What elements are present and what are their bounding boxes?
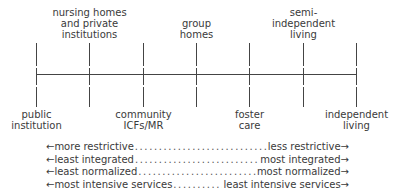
leader-dots bbox=[173, 179, 222, 192]
tick-label-line: care bbox=[235, 120, 264, 131]
tick-mark bbox=[143, 43, 144, 66]
legend-left-label: ←more restrictive bbox=[46, 141, 134, 154]
tick-mark bbox=[356, 87, 357, 107]
tick-mark bbox=[249, 43, 250, 66]
legend-left-label: ←least normalized bbox=[46, 166, 137, 179]
tick-mark bbox=[196, 68, 197, 85]
leader-dots bbox=[135, 154, 259, 167]
tick-mark bbox=[143, 68, 144, 85]
tick-mark bbox=[36, 68, 37, 85]
tick-label: nursing homesand privateinstitutions bbox=[52, 7, 126, 40]
tick-mark bbox=[249, 68, 250, 85]
tick-label-line: independent bbox=[325, 109, 388, 120]
tick-label-line: semi- bbox=[272, 7, 335, 18]
legend-right-label: most integrated→ bbox=[260, 154, 349, 167]
legend-row-integrated: ←least integrated most integrated→ bbox=[46, 154, 349, 167]
tick-label-line: institution bbox=[11, 120, 61, 131]
legend-row-intensive-services: ←most intensive services least intensive… bbox=[46, 179, 349, 192]
tick-mark bbox=[356, 43, 357, 66]
leader-dots bbox=[135, 141, 267, 154]
legend-left-label: ←least integrated bbox=[46, 154, 134, 167]
tick-label-line: group bbox=[180, 18, 214, 29]
tick-label-line: community bbox=[115, 109, 171, 120]
tick-mark bbox=[89, 68, 90, 85]
legend-row-normalized: ←least normalized most normalized→ bbox=[46, 166, 349, 179]
tick-label-line: foster bbox=[235, 109, 264, 120]
tick-label: communityICFs/MR bbox=[115, 109, 171, 131]
tick-label-line: ICFs/MR bbox=[115, 120, 171, 131]
tick-label: publicinstitution bbox=[11, 109, 61, 131]
tick-label-line: nursing homes bbox=[52, 7, 126, 18]
legend-right-label: most normalized→ bbox=[257, 166, 349, 179]
legend-left-label: ←most intensive services bbox=[46, 179, 172, 192]
tick-mark bbox=[356, 68, 357, 85]
tick-label-line: institutions bbox=[52, 29, 126, 40]
tick-label-line: independent bbox=[272, 18, 335, 29]
tick-mark bbox=[303, 68, 304, 85]
tick-label-line: homes bbox=[180, 29, 214, 40]
tick-label-line: living bbox=[272, 29, 335, 40]
legend-row-restrictive: ←more restrictive less restrictive→ bbox=[46, 141, 349, 154]
tick-mark bbox=[196, 87, 197, 107]
tick-mark bbox=[36, 87, 37, 107]
tick-label-line: public bbox=[11, 109, 61, 120]
tick-label-line: and private bbox=[52, 18, 126, 29]
tick-mark bbox=[89, 87, 90, 107]
tick-mark bbox=[303, 43, 304, 66]
tick-mark bbox=[89, 43, 90, 66]
tick-label: semi-independentliving bbox=[272, 7, 335, 40]
leader-dots bbox=[138, 166, 256, 179]
tick-mark bbox=[303, 87, 304, 107]
tick-mark bbox=[36, 43, 37, 66]
tick-label: fostercare bbox=[235, 109, 264, 131]
tick-mark bbox=[143, 87, 144, 107]
tick-mark bbox=[196, 43, 197, 66]
tick-mark bbox=[249, 87, 250, 107]
tick-label-line: living bbox=[325, 120, 388, 131]
continuum-legend: ←more restrictive less restrictive→ ←lea… bbox=[46, 141, 349, 191]
legend-right-label: less restrictive→ bbox=[268, 141, 349, 154]
tick-label: grouphomes bbox=[180, 18, 214, 40]
tick-label: independentliving bbox=[325, 109, 388, 131]
legend-right-label: least intensive services→ bbox=[223, 179, 349, 192]
